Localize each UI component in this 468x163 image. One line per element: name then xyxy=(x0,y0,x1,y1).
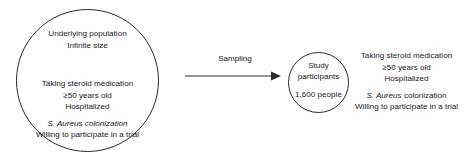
population-criterion-hospitalized: Hospitalized xyxy=(6,101,169,113)
right-arrow-icon xyxy=(183,60,283,84)
population-criterion-steroid: Taking steroid medication xyxy=(6,78,169,90)
participants-count-value: 1,600 people xyxy=(285,89,352,101)
underlying-population-header: Underlying population Infinite size xyxy=(16,28,159,51)
study-participants-title: Study participants xyxy=(288,60,349,82)
population-criterion-colonization: S. Aureus colonization xyxy=(6,118,169,130)
participants-title-line-1: Study xyxy=(288,60,349,71)
population-criterion-age: ≥50 years old xyxy=(6,90,169,102)
population-size: Infinite size xyxy=(16,40,159,52)
sample-criterion-colonization-word: colonization xyxy=(404,91,447,100)
sample-criterion-colonization: S. Aureus colonization xyxy=(345,90,468,102)
participants-title-line-2: participants xyxy=(288,71,349,82)
sample-criterion-age: ≥50 years old xyxy=(345,62,468,74)
population-title: Underlying population xyxy=(16,28,159,40)
sample-criterion-organism: S. Aureus xyxy=(366,91,401,100)
sample-criteria-list: Taking steroid medication ≥50 years old … xyxy=(345,50,468,113)
sample-criterion-willing: Willing to participate in a trial xyxy=(345,101,468,113)
study-participants-count: 1,600 people xyxy=(285,89,352,101)
population-criterion-willing: Willing to participate in a trial xyxy=(6,129,169,141)
sample-criterion-hospitalized: Hospitalized xyxy=(345,73,468,85)
sampling-diagram: Underlying population Infinite size Taki… xyxy=(0,0,468,163)
population-criteria-list: Taking steroid medication ≥50 years old … xyxy=(6,78,169,141)
sample-criterion-steroid: Taking steroid medication xyxy=(345,50,468,62)
